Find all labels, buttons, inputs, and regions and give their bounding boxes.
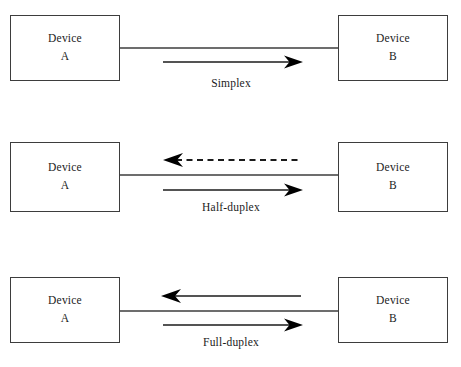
diagram-strokes [0,0,461,367]
arrow-left-full-duplex [161,289,301,303]
transmission-modes-diagram: Device A Device B Simplex Device A Devic… [0,0,461,367]
arrow-right-full-duplex [163,319,303,332]
arrow-right-half-duplex [163,184,303,197]
arrow-right-simplex [163,56,303,69]
arrow-left-dashed-half-duplex [163,153,301,167]
